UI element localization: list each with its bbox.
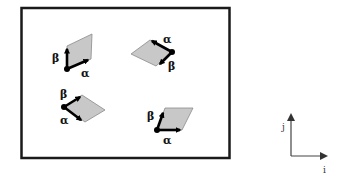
origin-dot	[61, 104, 67, 110]
origin-dot	[64, 66, 70, 72]
beta-label: β	[52, 52, 59, 65]
beta-label: β	[60, 88, 67, 101]
image-frame	[22, 8, 230, 158]
beta-label: β	[147, 110, 154, 123]
diagram-canvas: β α α β β α β α j i	[0, 0, 349, 180]
j-axis-label: j	[281, 122, 285, 132]
i-axis-label: i	[323, 165, 326, 175]
alpha-label: α	[60, 114, 69, 127]
origin-dot	[154, 127, 160, 133]
origin-dot	[169, 49, 175, 55]
alpha-label: α	[163, 33, 172, 46]
alpha-label: α	[81, 67, 90, 80]
alpha-label: α	[163, 134, 172, 147]
beta-label: β	[168, 60, 175, 73]
reference-axes: j i	[281, 115, 326, 175]
